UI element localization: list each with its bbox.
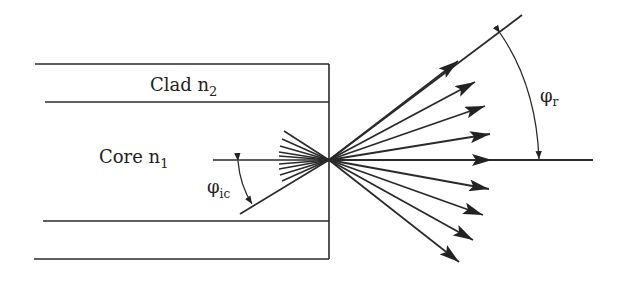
diagram-svg: Clad n2 Core n1 φic φr — [0, 0, 627, 284]
phi-ic-angle-arc — [238, 161, 252, 204]
ray-1 — [329, 61, 458, 160]
ray-7 — [329, 160, 483, 215]
clad-label: Clad n2 — [150, 74, 217, 99]
phi-r-label: φr — [540, 85, 559, 109]
core-label: Core n1 — [99, 146, 168, 171]
phi-r-angle-arc — [500, 33, 539, 159]
fiber-diagram: Clad n2 Core n1 φic φr — [0, 0, 627, 284]
ray-6 — [329, 160, 489, 189]
ray-3 — [329, 106, 485, 160]
phi-ic-label: φic — [207, 176, 230, 201]
ray-8 — [329, 160, 473, 240]
incident-ray-cone — [213, 131, 329, 214]
radiated-rays — [329, 15, 593, 262]
ray-9 — [329, 160, 459, 262]
